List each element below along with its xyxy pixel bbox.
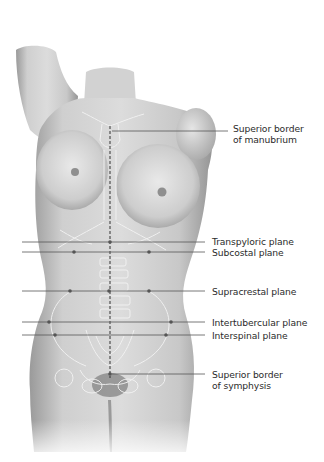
label-intertubercular: Intertubercular plane bbox=[212, 317, 307, 328]
label-manubrium-line1: Superior border bbox=[233, 123, 304, 134]
label-subcostal: Subcostal plane bbox=[212, 247, 284, 258]
label-supracrestal: Supracrestal plane bbox=[212, 286, 296, 297]
anatomy-illustration bbox=[0, 0, 324, 462]
label-manubrium: Superior border of manubrium bbox=[233, 123, 304, 145]
left-nipple bbox=[158, 188, 167, 197]
bottom-fade bbox=[0, 420, 324, 462]
label-manubrium-line2: of manubrium bbox=[233, 134, 304, 145]
label-symphysis-line1: Superior border bbox=[212, 369, 283, 380]
right-nipple bbox=[71, 168, 79, 176]
label-interspinal: Interspinal plane bbox=[212, 330, 287, 341]
left-breast bbox=[116, 144, 200, 228]
label-symphysis-line2: of symphysis bbox=[212, 380, 283, 391]
label-symphysis: Superior border of symphysis bbox=[212, 369, 283, 391]
label-transpyloric: Transpyloric plane bbox=[212, 236, 294, 247]
